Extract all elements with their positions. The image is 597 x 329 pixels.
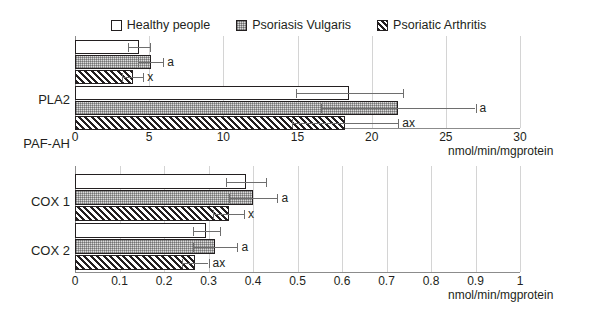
- error-bar-cap: [193, 243, 194, 252]
- gridline: [520, 36, 521, 128]
- error-bar-cap: [220, 227, 221, 236]
- x-tick-label: 0.8: [423, 274, 440, 288]
- significance-marker: ax: [213, 257, 226, 269]
- error-bar-cap: [277, 194, 278, 203]
- legend-item-psoriasis-vulgaris: Psoriasis Vulgaris: [236, 19, 351, 32]
- x-tick-label: 0.7: [378, 274, 395, 288]
- error-bar: [182, 263, 209, 264]
- bar-cox-2-healthy-people: [75, 223, 206, 238]
- error-bar: [229, 198, 278, 199]
- error-bar-cap: [266, 178, 267, 187]
- gridline: [387, 166, 388, 272]
- x-axis-line: [75, 272, 520, 273]
- error-bar-cap: [398, 119, 399, 128]
- error-bar-cap: [237, 243, 238, 252]
- x-axis-unit-top: nmol/min/mgprotein: [448, 144, 553, 158]
- x-tick-label: 0.6: [334, 274, 351, 288]
- gridline: [520, 166, 521, 272]
- error-bar-cap: [209, 259, 210, 268]
- error-bar: [193, 247, 238, 248]
- error-bar: [128, 47, 150, 48]
- bar-cox-1-healthy-people: [75, 174, 246, 189]
- significance-marker: x: [248, 208, 254, 220]
- error-bar: [213, 214, 244, 215]
- error-bar: [138, 62, 163, 63]
- x-tick-label: 30: [513, 130, 526, 144]
- legend-item-psoriatic-arthritis: Psoriatic Arthritis: [377, 19, 486, 32]
- x-tick-label: 0.4: [245, 274, 262, 288]
- error-bar-cap: [403, 89, 404, 98]
- error-bar-cap: [292, 119, 293, 128]
- legend-label-healthy-people: Healthy people: [127, 19, 210, 32]
- error-bar: [193, 231, 220, 232]
- x-tick-label: 15: [291, 130, 304, 144]
- error-bar: [226, 182, 266, 183]
- error-bar: [122, 77, 143, 78]
- error-bar-cap: [138, 58, 139, 67]
- significance-marker: ax: [402, 117, 415, 129]
- x-axis-unit-bottom: nmol/min/mgprotein: [448, 288, 553, 302]
- error-bar-cap: [213, 210, 214, 219]
- error-bar: [292, 123, 399, 124]
- error-bar-cap: [122, 73, 123, 82]
- category-label-cox-1: COX 1: [0, 194, 70, 209]
- error-bar-cap: [476, 104, 477, 113]
- x-tick-label: 5: [146, 130, 153, 144]
- error-bar-cap: [321, 104, 322, 113]
- bar-cox-2-psoriatic-arthritis: [75, 255, 195, 270]
- error-bar: [296, 93, 403, 94]
- square-dotted-swatch-icon: [236, 20, 247, 31]
- error-bar-cap: [128, 43, 129, 52]
- significance-marker: a: [167, 56, 174, 68]
- error-bar-cap: [193, 227, 194, 236]
- bar-cox-1-psoriasis-vulgaris: [75, 190, 253, 205]
- error-bar-cap: [226, 178, 227, 187]
- gridline: [446, 36, 447, 128]
- error-bar-cap: [229, 194, 230, 203]
- error-bar-cap: [244, 210, 245, 219]
- square-open-swatch-icon: [111, 20, 122, 31]
- gridline: [298, 166, 299, 272]
- error-bar-cap: [150, 43, 151, 52]
- x-tick-label: 10: [217, 130, 230, 144]
- error-bar-cap: [182, 259, 183, 268]
- x-tick-label: 0: [72, 130, 79, 144]
- error-bar: [321, 108, 475, 109]
- gridline: [431, 166, 432, 272]
- chart-legend: Healthy people Psoriasis Vulgaris Psoria…: [0, 16, 597, 34]
- x-tick-label: 0.2: [156, 274, 173, 288]
- x-tick-label: 1: [517, 274, 524, 288]
- gridline: [342, 166, 343, 272]
- square-hatched-swatch-icon: [377, 20, 388, 31]
- chart-panel-bottom: COX 1 COX 2 axaax 00.10.20.30.40.50.60.7…: [0, 166, 597, 316]
- bar-cox-1-psoriatic-arthritis: [75, 206, 229, 221]
- x-tick-label: 25: [439, 130, 452, 144]
- category-label-pla2: PLA2: [0, 92, 70, 107]
- gridline: [476, 166, 477, 272]
- x-tick-label: 0.9: [467, 274, 484, 288]
- legend-label-psoriatic-arthritis: Psoriatic Arthritis: [393, 19, 486, 32]
- error-bar-cap: [163, 58, 164, 67]
- category-label-paf-ah: PAF-AH: [0, 136, 70, 151]
- legend-label-psoriasis-vulgaris: Psoriasis Vulgaris: [252, 19, 351, 32]
- x-tick-label: 20: [365, 130, 378, 144]
- x-tick-label: 0.3: [200, 274, 217, 288]
- figure-root: Healthy people Psoriasis Vulgaris Psoria…: [0, 0, 597, 329]
- legend-item-healthy-people: Healthy people: [111, 19, 210, 32]
- error-bar-cap: [296, 89, 297, 98]
- category-label-cox-2: COX 2: [0, 243, 70, 258]
- x-tick-label: 0.1: [111, 274, 128, 288]
- x-tick-label: 0: [72, 274, 79, 288]
- chart-panel-top: PLA2 PAF-AH axaax 051015202530 nmol/min/…: [0, 36, 597, 160]
- significance-marker: a: [281, 192, 288, 204]
- x-tick-label: 0.5: [289, 274, 306, 288]
- significance-marker: x: [147, 71, 153, 83]
- significance-marker: a: [480, 102, 487, 114]
- error-bar-cap: [143, 73, 144, 82]
- significance-marker: a: [241, 241, 248, 253]
